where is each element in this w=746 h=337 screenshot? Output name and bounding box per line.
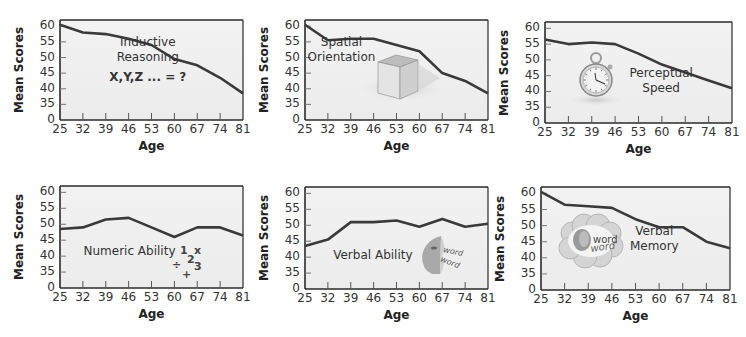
panel-label-verbal-memory: VerbalMemory (630, 224, 679, 254)
x-tick-label: 60 (647, 292, 671, 306)
x-tick-label: 46 (600, 292, 624, 306)
panel-label-line: Verbal (630, 224, 679, 239)
plot-svg-verbal-memory: wordword (0, 0, 746, 337)
y-tick-label: 40 (512, 250, 536, 264)
x-tick-label: 67 (671, 292, 695, 306)
y-tick-label: 60 (512, 185, 536, 199)
y-tick-label: 50 (512, 218, 536, 232)
panel-label-line: Memory (630, 239, 679, 254)
x-tick-label: 74 (694, 292, 718, 306)
x-tick-label: 25 (529, 292, 553, 306)
x-tick-label: 53 (624, 292, 648, 306)
y-tick-label: 35 (512, 266, 536, 280)
x-tick-label: 81 (718, 292, 742, 306)
y-axis-label: Mean Scores (493, 189, 509, 289)
x-tick-label: 32 (553, 292, 577, 306)
y-tick-label: 45 (512, 234, 536, 248)
x-tick-label: 39 (576, 292, 600, 306)
y-tick-label: 55 (512, 202, 536, 216)
x-axis-label: Age (606, 309, 666, 323)
